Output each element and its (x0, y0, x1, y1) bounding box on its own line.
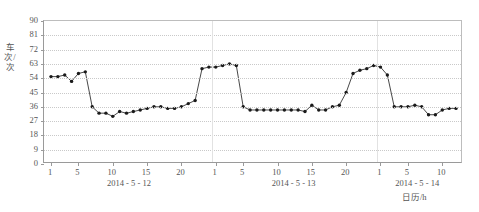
x-axis-day-label: 2014 - 5 - 14 (395, 179, 439, 188)
data-point-marker (187, 102, 190, 105)
x-axis-tick-label: 10 (272, 168, 281, 177)
y-axis-tick-mark (41, 35, 44, 36)
data-point-marker (379, 65, 382, 68)
y-axis-tick-mark (41, 78, 44, 79)
data-point-marker (111, 115, 114, 118)
data-point-marker (317, 108, 320, 111)
x-axis-tick-mark (442, 162, 443, 166)
x-axis-day-label: 2014 - 5 - 12 (107, 179, 151, 188)
x-axis-tick-label: 20 (176, 168, 185, 177)
y-axis-tick-mark (41, 150, 44, 151)
data-point-marker (255, 108, 258, 111)
y-axis-tick-mark (41, 50, 44, 51)
data-point-marker (193, 99, 196, 102)
gridline-horizontal (44, 64, 461, 65)
y-axis-title: 车次/次 (2, 42, 18, 72)
data-point-marker (324, 108, 327, 111)
series-polyline (51, 64, 456, 116)
x-axis-tick-label: 1 (213, 168, 217, 177)
gridline-horizontal (44, 107, 461, 108)
data-point-marker (63, 73, 66, 76)
data-point-marker (200, 67, 203, 70)
data-point-marker (434, 113, 437, 116)
x-axis-tick-mark (113, 162, 114, 166)
data-point-marker (269, 108, 272, 111)
x-axis-tick-mark (312, 162, 313, 166)
y-axis-tick-mark (41, 21, 44, 22)
data-point-marker (351, 72, 354, 75)
data-point-marker (84, 70, 87, 73)
y-axis-tick-label: 90 (12, 16, 38, 25)
gridline-horizontal (44, 121, 461, 122)
x-axis-tick-mark (243, 162, 244, 166)
day-separator-line (377, 21, 378, 162)
data-point-marker (97, 111, 100, 114)
x-axis-tick-label: 5 (240, 168, 244, 177)
x-axis-tick-mark (78, 162, 79, 166)
y-axis-tick-mark (41, 164, 44, 165)
x-axis-tick-mark (51, 162, 52, 166)
data-point-marker (358, 69, 361, 72)
x-axis-tick-mark (408, 162, 409, 166)
x-axis-tick-mark (346, 162, 347, 166)
data-point-marker (118, 110, 121, 113)
y-axis-tick-mark (41, 121, 44, 122)
chart-figure: 车次/次 09182736455463728190151015202014 - … (0, 0, 479, 212)
y-axis-tick-label: 54 (12, 73, 38, 82)
gridline-horizontal (44, 150, 461, 151)
x-axis-tick-label: 10 (108, 168, 117, 177)
x-axis-tick-label: 1 (377, 168, 381, 177)
data-point-marker (214, 65, 217, 68)
y-axis-tick-label: 0 (12, 159, 38, 168)
y-axis-tick-mark (41, 64, 44, 65)
gridline-horizontal (44, 78, 461, 79)
data-point-marker (262, 108, 265, 111)
y-axis-tick-label: 27 (12, 116, 38, 125)
data-point-marker (290, 108, 293, 111)
data-point-marker (125, 111, 128, 114)
data-point-marker (132, 110, 135, 113)
y-axis-tick-label: 36 (12, 102, 38, 111)
data-point-marker (386, 73, 389, 76)
data-point-marker (276, 108, 279, 111)
y-axis-title-text: 车次/次 (2, 42, 18, 72)
y-axis-tick-mark (41, 135, 44, 136)
data-point-marker (248, 108, 251, 111)
x-axis-tick-mark (147, 162, 148, 166)
y-axis-tick-label: 9 (12, 145, 38, 154)
x-axis-tick-mark (216, 162, 217, 166)
data-point-marker (427, 113, 430, 116)
data-point-marker (104, 111, 107, 114)
y-axis-tick-mark (41, 93, 44, 94)
x-axis-tick-label: 5 (75, 168, 79, 177)
x-axis-tick-label: 15 (142, 168, 151, 177)
day-separator-line (212, 21, 213, 162)
y-axis-tick-mark (41, 107, 44, 108)
x-axis-tick-mark (380, 162, 381, 166)
data-point-marker (139, 108, 142, 111)
data-point-marker (283, 108, 286, 111)
data-point-marker (441, 108, 444, 111)
data-point-marker (207, 65, 210, 68)
y-axis-tick-label: 45 (12, 88, 38, 97)
x-axis-tick-label: 15 (307, 168, 316, 177)
x-axis-title: 日历/h (402, 190, 427, 202)
data-point-marker (365, 67, 368, 70)
plot-area (43, 20, 462, 163)
x-axis-title-text: 日历/h (402, 192, 427, 202)
x-axis-tick-mark (181, 162, 182, 166)
data-point-marker (296, 108, 299, 111)
gridline-horizontal (44, 50, 461, 51)
x-axis-tick-label: 20 (341, 168, 350, 177)
gridline-horizontal (44, 93, 461, 94)
x-axis-tick-label: 5 (405, 168, 409, 177)
y-axis-tick-label: 81 (12, 30, 38, 39)
x-axis-tick-mark (278, 162, 279, 166)
data-point-marker (70, 80, 73, 83)
gridline-horizontal (44, 135, 461, 136)
data-point-marker (303, 110, 306, 113)
x-axis-day-label: 2014 - 5 - 13 (272, 179, 316, 188)
gridline-horizontal (44, 35, 461, 36)
x-axis-tick-label: 1 (48, 168, 52, 177)
x-axis-tick-label: 10 (437, 168, 446, 177)
